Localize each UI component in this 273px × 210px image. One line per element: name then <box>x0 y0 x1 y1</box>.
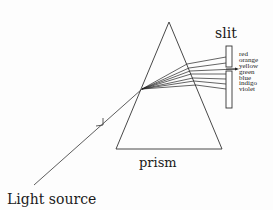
ray-indigo <box>194 81 226 84</box>
prism-label: prism <box>139 156 177 169</box>
light-source-label: Light source <box>7 192 96 206</box>
slit-upper <box>226 46 232 67</box>
prism-dispersion-diagram: slit prism Light source red orange yello… <box>0 0 273 210</box>
prism-shape <box>116 22 222 149</box>
ray-blue <box>193 78 226 79</box>
slit-lower <box>226 71 232 108</box>
ray-orange <box>189 63 226 68</box>
ray-red <box>187 57 226 64</box>
incident-light-ray <box>34 89 142 185</box>
slit-label: slit <box>215 26 237 40</box>
ray-violet <box>196 85 226 89</box>
spectrum-color-list: red orange yellow green blue indigo viol… <box>239 52 258 93</box>
color-label-violet: violet <box>239 87 258 93</box>
ray-arrow-icon <box>96 118 103 126</box>
